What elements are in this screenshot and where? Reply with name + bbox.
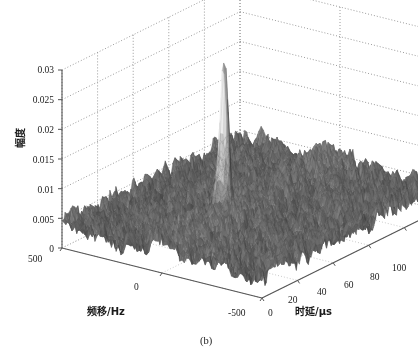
y-tick-label: -500 [228, 309, 245, 319]
z-axis-title: 幅度 [16, 116, 26, 160]
figure-container: 0.03 0.025 0.02 0.015 0.01 0.005 0 幅度 50… [0, 0, 418, 360]
x-tick-label: 100 [392, 264, 406, 274]
z-tick-label: 0.025 [6, 96, 54, 106]
z-tick-label: 0.005 [6, 216, 54, 226]
x-tick-label: 20 [288, 296, 298, 306]
x-tick-label: 0 [268, 309, 273, 319]
z-tick-label: 0.01 [6, 186, 54, 196]
x-tick-label: 60 [344, 281, 354, 291]
z-tick-label: 0.03 [6, 66, 54, 76]
z-tick-label: 0.02 [6, 126, 54, 136]
y-tick-label: 0 [134, 283, 139, 293]
surface-plot-canvas [0, 0, 418, 360]
y-axis-title: 频移/Hz [87, 307, 125, 317]
x-tick-label: 80 [370, 273, 380, 283]
y-tick-label: 500 [28, 255, 42, 265]
figure-caption: (b) [200, 336, 212, 347]
z-tick-label: 0.015 [6, 156, 54, 166]
x-tick-label: 40 [317, 288, 327, 298]
x-axis-title: 时延/μs [295, 307, 332, 317]
